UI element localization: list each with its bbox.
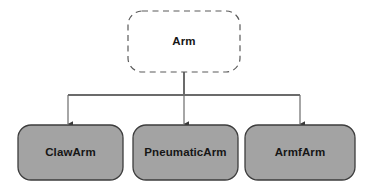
diagram-canvas: Arm ClawArm PneumaticArm ArmfArm	[0, 0, 368, 195]
class-hierarchy-diagram: Arm ClawArm PneumaticArm ArmfArm	[0, 0, 368, 195]
node-arm-label: Arm	[172, 35, 195, 47]
node-arm[interactable]: Arm	[128, 11, 240, 72]
node-clawarm[interactable]: ClawArm	[18, 125, 123, 180]
node-pneumaticarm[interactable]: PneumaticArm	[133, 125, 238, 180]
node-clawarm-label: ClawArm	[45, 146, 96, 158]
node-armfarm-label: ArmfArm	[275, 146, 326, 158]
node-pneumaticarm-label: PneumaticArm	[144, 146, 226, 158]
node-armfarm[interactable]: ArmfArm	[245, 125, 355, 180]
inheritance-connector-group	[68, 72, 300, 124]
